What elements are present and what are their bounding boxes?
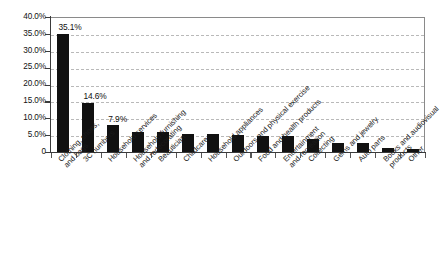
x-axis-tick-mark <box>51 153 52 158</box>
y-axis-tick-mark <box>45 34 50 35</box>
x-axis-tick-mark <box>300 153 301 158</box>
x-axis-tick-mark <box>201 153 202 158</box>
x-axis-tick-mark <box>325 153 326 158</box>
y-axis-tick-mark <box>45 85 50 86</box>
x-axis-tick-mark <box>275 153 276 158</box>
x-axis-tick-mark <box>425 153 426 158</box>
x-axis-category-labels: Clothing, shoes, and bags3C numbersHouse… <box>0 0 444 279</box>
x-axis-tick-mark <box>400 153 401 158</box>
y-axis-tick-mark <box>45 135 50 136</box>
bar-chart: 40.0%35.0%30.0%25.0%20.0%15.0%10.0%5.0%0… <box>0 0 444 279</box>
x-axis-tick-mark <box>76 153 77 158</box>
x-axis-tick-mark <box>176 153 177 158</box>
y-axis-tick-mark <box>45 118 50 119</box>
x-axis-tick-mark <box>126 153 127 158</box>
y-axis-tick-mark <box>45 152 50 153</box>
x-axis-tick-mark <box>375 153 376 158</box>
y-axis-tick-mark <box>45 68 50 69</box>
x-axis-tick-mark <box>151 153 152 158</box>
y-axis-tick-mark <box>45 51 50 52</box>
x-axis-tick-mark <box>101 153 102 158</box>
x-axis-tick-mark <box>226 153 227 158</box>
x-axis-tick-mark <box>350 153 351 158</box>
x-axis-tick-mark <box>250 153 251 158</box>
y-axis-tick-mark <box>45 17 50 18</box>
y-axis-tick-mark <box>45 101 50 102</box>
